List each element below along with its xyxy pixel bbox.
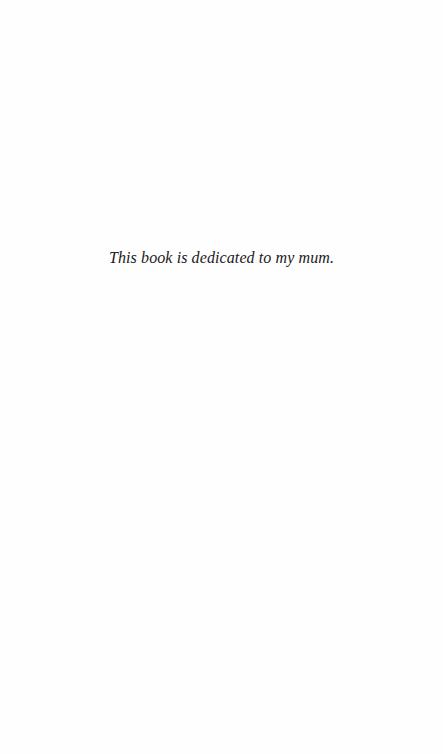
dedication-text: This book is dedicated to my mum. [0,247,443,269]
book-page: This book is dedicated to my mum. [0,0,443,754]
